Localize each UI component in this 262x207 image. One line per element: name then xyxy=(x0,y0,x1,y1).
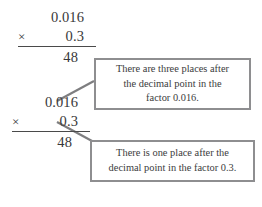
product-bottom: 48 xyxy=(12,132,90,152)
callout-one-line-1: There are three places after xyxy=(116,62,229,77)
factor-two-bottom: 0.3 xyxy=(60,112,78,131)
multiplication-operator-top: × xyxy=(18,28,25,45)
callout-two-line-2: decimal point in the factor 0.3. xyxy=(109,161,237,176)
callout-one-line-3: factor 0.016. xyxy=(146,91,199,106)
factor-two-top: 0.3 xyxy=(66,27,84,46)
factor-two-row-bottom: × 0.3 xyxy=(12,112,90,132)
callout-box-three-places: There are three places after the decimal… xyxy=(94,58,251,110)
factor-one-top: 0.016 xyxy=(18,8,96,27)
multiplication-operator-bottom: × xyxy=(12,113,19,130)
factor-two-row-top: × 0.3 xyxy=(18,27,96,47)
callout-box-one-place: There is one place after the decimal poi… xyxy=(90,140,255,182)
math-expression-bottom: 0.016 × 0.3 48 xyxy=(12,93,90,152)
factor-one-bottom: 0.016 xyxy=(12,93,90,112)
math-expression-top: 0.016 × 0.3 48 xyxy=(18,8,96,67)
figure-canvas: 0.016 × 0.3 48 0.016 × 0.3 48 There are … xyxy=(0,0,262,207)
callout-two-line-1: There is one place after the xyxy=(116,146,229,161)
product-top: 48 xyxy=(18,47,96,67)
callout-one-line-2: the decimal point in the xyxy=(123,77,221,92)
